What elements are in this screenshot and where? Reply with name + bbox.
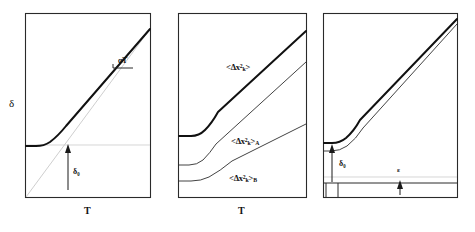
panel-a-frame — [26, 14, 151, 198]
curve-label-a-trail: A — [255, 140, 259, 146]
panel-b-curve-label-total: <Δx2k> — [226, 63, 250, 73]
curve-label-total-pre: <Δx — [226, 62, 240, 72]
panel-c-curve-upper — [324, 19, 457, 143]
curve-label-a-pre: <Δx — [231, 136, 245, 146]
panel-b-curve-label-a: <Δx2k>A — [231, 137, 259, 147]
panel-a-graphic — [0, 0, 160, 232]
panel-a-slope-label: αT — [118, 57, 127, 65]
panel-b-curve-a — [179, 62, 306, 165]
panel-a-y-axis-label: δ — [9, 98, 14, 109]
panel-c-frame — [324, 14, 458, 198]
panel-c-graphic — [318, 0, 475, 232]
panel-a-asymptote — [26, 29, 150, 197]
panel-c-epsilon-arrowhead — [397, 180, 403, 189]
figure-container: δ T αT δ₀ <Δx2k> <Δx2k>A <Δx2k>B T — [0, 0, 475, 232]
panel-a-delta0-arrowhead — [65, 144, 71, 153]
panel-b-graphic — [158, 0, 320, 232]
panel-c-offset-label: δ₀ — [339, 160, 346, 168]
panel-a: δ T αT δ₀ — [0, 0, 160, 232]
panel-a-x-axis-label: T — [84, 206, 91, 216]
curve-label-b-pre: <Δx — [229, 173, 243, 183]
panel-a-curve — [26, 29, 150, 146]
panel-b: <Δx2k> <Δx2k>A <Δx2k>B T — [158, 0, 320, 232]
panel-c: δ₀ ε — [318, 0, 475, 232]
curve-label-b-trail: B — [253, 177, 257, 183]
panel-b-frame — [179, 14, 307, 198]
panel-a-offset-label: δ₀ — [73, 168, 80, 176]
panel-c-epsilon-label: ε — [397, 167, 400, 174]
curve-label-total-post: > — [246, 62, 251, 72]
panel-c-delta0-arrowhead — [329, 144, 335, 153]
panel-b-x-axis-label: T — [238, 206, 245, 216]
panel-b-curve-label-b: <Δx2k>B — [229, 174, 257, 184]
